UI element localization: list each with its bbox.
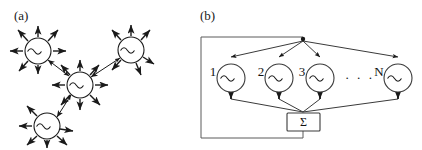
oscillator-top-left (25, 38, 51, 64)
panel-a-caption: (a) (14, 8, 28, 23)
oscillator-center (67, 72, 93, 98)
ellipsis: · · · (345, 70, 375, 85)
oscillator-n-label: N (374, 64, 384, 79)
figure-container: (a) (0, 0, 422, 150)
oscillator-2-label: 2 (258, 64, 265, 79)
sum-block-label: Σ (300, 115, 307, 129)
figure-svg: (a) (0, 0, 422, 150)
oscillator-3-label: 3 (299, 64, 306, 79)
oscillator-bottom-left (34, 113, 60, 139)
fanout-junction-dot (301, 37, 305, 41)
oscillator-1-label: 1 (210, 64, 217, 79)
oscillator-top-right (118, 37, 144, 63)
panel-b-caption: (b) (200, 8, 215, 23)
